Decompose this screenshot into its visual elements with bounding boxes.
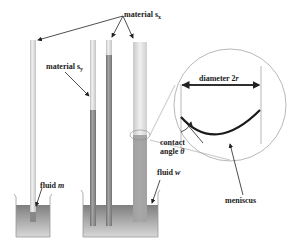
arrow-material-sy <box>65 72 89 96</box>
tube-material-sy <box>90 40 96 226</box>
tube-middle <box>106 40 112 226</box>
arrows-material-sx <box>38 16 133 40</box>
zoom-line-top <box>150 85 175 135</box>
label-material-sx: material sx <box>124 10 161 22</box>
label-fluid-w: fluid w <box>157 168 180 177</box>
arrow-meniscus <box>230 144 243 195</box>
label-contact-angle: contactangle θ <box>160 138 185 156</box>
label-diameter: diameter 2r <box>199 74 239 83</box>
label-fluid-m: fluid m <box>40 181 64 190</box>
label-meniscus: meniscus <box>225 196 256 205</box>
label-material-sy: material sy <box>46 62 83 74</box>
arrow-fluid-m <box>36 188 42 206</box>
tube-wide <box>130 42 150 222</box>
tube-left <box>30 40 36 222</box>
capillary-diagram <box>0 0 289 247</box>
